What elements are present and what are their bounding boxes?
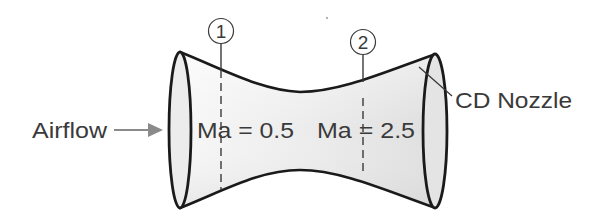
nozzle-label: CD Nozzle xyxy=(455,88,572,113)
station-1-mach-label: Ma = 0.5 xyxy=(197,118,294,143)
speck xyxy=(326,17,328,19)
cd-nozzle-diagram: 1 2 Ma = 0.5 Ma = 2.5 Airflow CD Nozzle xyxy=(0,0,604,224)
inlet-ellipse xyxy=(169,52,191,208)
outlet-ellipse xyxy=(423,54,447,208)
station-1-number: 1 xyxy=(216,21,227,42)
airflow-arrow-icon xyxy=(114,123,163,137)
station-2-number: 2 xyxy=(358,32,369,53)
station-2-mach-label: Ma = 2.5 xyxy=(317,118,415,143)
airflow-label: Airflow xyxy=(32,118,107,143)
